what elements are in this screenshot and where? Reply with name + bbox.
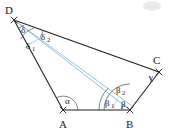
angle-label-beta1-glyph: β bbox=[105, 98, 110, 108]
tick-C bbox=[156, 69, 162, 75]
vertex-label-A: A bbox=[59, 118, 67, 130]
angle-label-delta2: δ 2 bbox=[41, 32, 50, 43]
geometry-figure: D C B A δ δ 1 δ 2 α β 1 bbox=[0, 0, 173, 134]
angle-label-gamma: γ bbox=[148, 72, 153, 82]
quadrilateral-edges bbox=[14, 20, 159, 110]
angle-labels: δ δ 1 δ 2 α β 1 β 2 β bbox=[21, 25, 153, 109]
angle-label-beta: β bbox=[121, 99, 126, 109]
angle-label-delta: δ bbox=[21, 25, 25, 35]
angle-label-beta1: β 1 bbox=[105, 98, 114, 109]
scan-artifact bbox=[143, 1, 161, 11]
cevian-D-B-secondary bbox=[14, 20, 132, 106]
angle-label-delta1-glyph: δ bbox=[26, 41, 30, 51]
angle-label-beta2-sub: 2 bbox=[122, 89, 125, 96]
angle-label-delta2-sub: 2 bbox=[47, 36, 50, 43]
angle-label-beta2-glyph: β bbox=[116, 85, 121, 95]
geometry-canvas: D C B A δ δ 1 δ 2 α β 1 bbox=[0, 0, 173, 134]
vertex-label-B: B bbox=[126, 118, 133, 130]
edge-D-C bbox=[14, 20, 159, 72]
tick-D bbox=[11, 17, 17, 23]
angle-label-beta-glyph: β bbox=[121, 99, 126, 109]
angle-label-delta2-glyph: δ bbox=[41, 32, 45, 42]
vertex-labels: D C B A bbox=[5, 4, 160, 130]
angle-label-delta1-sub: 1 bbox=[32, 45, 35, 52]
angle-label-gamma-glyph: γ bbox=[148, 72, 153, 82]
cevian-D-B bbox=[14, 20, 130, 110]
angle-label-alpha: α bbox=[65, 96, 70, 106]
vertex-label-D: D bbox=[5, 4, 13, 16]
edge-C-B bbox=[130, 72, 159, 110]
angle-label-delta-glyph: δ bbox=[21, 25, 25, 35]
vertex-label-C: C bbox=[153, 54, 160, 66]
diagonal-lines bbox=[14, 20, 132, 110]
angle-label-beta2: β 2 bbox=[116, 85, 125, 96]
angle-label-beta1-sub: 1 bbox=[111, 102, 114, 109]
angle-label-alpha-glyph: α bbox=[65, 96, 70, 106]
